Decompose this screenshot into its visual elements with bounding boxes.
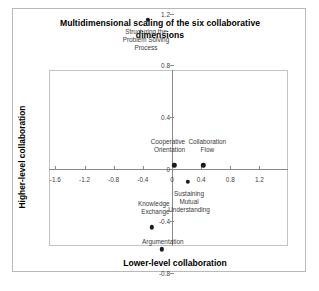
data-point-label: Knowledge Exchange	[126, 200, 170, 216]
x-tick-label: 0.8	[226, 176, 235, 183]
y-tick-label: 0.8	[138, 62, 170, 69]
y-tick-label: 0	[138, 166, 170, 173]
x-tick-label: -1.2	[79, 176, 90, 183]
x-tick-label: 1.2	[255, 176, 264, 183]
x-tick-mark	[259, 166, 260, 170]
data-point-label: Collaboration Flow	[184, 138, 230, 154]
x-tick-mark	[230, 166, 231, 170]
x-tick-mark	[85, 166, 86, 170]
y-tick-label: -0.8	[138, 269, 170, 276]
data-point-label: Sustaining Mutual Understanding	[164, 190, 214, 214]
x-tick-mark	[55, 166, 56, 170]
data-point-label: Structuring the Problem Solving Process	[114, 28, 178, 52]
x-tick-label: 0	[170, 176, 174, 183]
y-tick-mark	[170, 117, 174, 118]
x-axis-label: Lower-level collaboration	[60, 258, 290, 268]
y-tick-label: -0.4	[138, 217, 170, 224]
data-point-label: Argumentation	[136, 238, 190, 246]
data-point-label: Cooperative Orientation	[135, 138, 185, 154]
x-tick-label: -0.4	[137, 176, 148, 183]
y-tick-mark	[170, 65, 174, 66]
x-tick-label: -0.8	[108, 176, 119, 183]
y-tick-mark	[170, 221, 174, 222]
y-axis-line	[172, 70, 173, 246]
y-axis-label: Higher-level collaboration	[17, 97, 27, 217]
x-tick-mark	[114, 166, 115, 170]
y-tick-mark	[170, 14, 174, 15]
x-tick-label: 0.4	[197, 176, 206, 183]
x-tick-label: -1.6	[50, 176, 61, 183]
y-tick-label: 1.2	[138, 10, 170, 17]
y-tick-mark	[170, 273, 174, 274]
chart-figure: Multidimensional scaling of the six coll…	[0, 0, 319, 291]
y-tick-label: 0.4	[138, 114, 170, 121]
